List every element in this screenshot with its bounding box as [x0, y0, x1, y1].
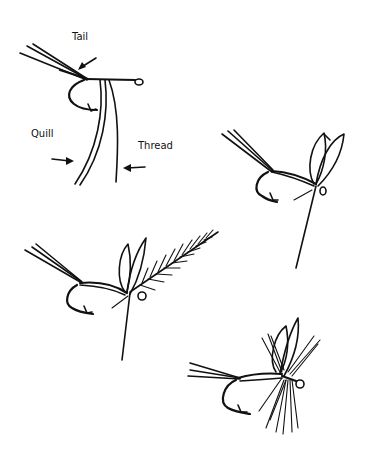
- illustration-canvas: [0, 0, 369, 469]
- step-3-figure: [25, 230, 218, 360]
- step-4-figure: [188, 318, 320, 434]
- step-2-figure: [222, 130, 344, 268]
- tail-label: Tail: [72, 32, 88, 42]
- step-1-figure: [20, 44, 145, 185]
- quill-label: Quill: [31, 129, 54, 139]
- thread-label: Thread: [138, 141, 173, 151]
